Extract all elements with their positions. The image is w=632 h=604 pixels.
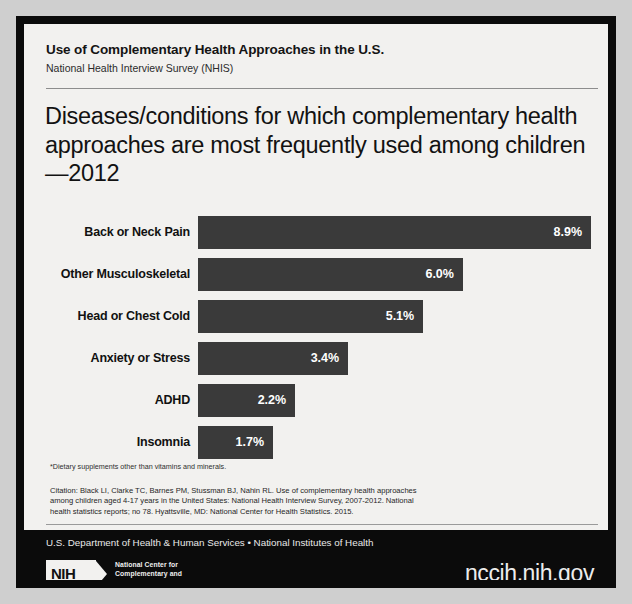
bar-chart: Back or Neck Pain8.9%Other Musculoskelet…: [24, 216, 608, 468]
header-title: Use of Complementary Health Approaches i…: [46, 42, 586, 58]
website-url[interactable]: nccih.nih.gov: [465, 558, 594, 580]
nih-badge: NIH: [46, 560, 96, 580]
bar: 1.7%: [198, 426, 273, 459]
nccih-name-line-1: National Center for: [115, 560, 182, 569]
bar: 5.1%: [198, 300, 423, 333]
bar-category-label: Back or Neck Pain: [24, 216, 190, 249]
bar-value-label: 8.9%: [554, 216, 583, 249]
chart-row: Back or Neck Pain8.9%: [24, 216, 608, 249]
chevron-right-icon: [96, 561, 107, 581]
nccih-name-line-2: Complementary and: [115, 569, 182, 578]
nih-logo: NIH National Center for Complementary an…: [46, 560, 182, 580]
bar-category-label: Other Musculoskeletal: [24, 258, 190, 291]
bar-category-label: ADHD: [24, 384, 190, 417]
bar: 2.2%: [198, 384, 295, 417]
bar: 6.0%: [198, 258, 463, 291]
nccih-name-line-3: Integrative Health: [115, 578, 182, 580]
poster-frame: Use of Complementary Health Approaches i…: [16, 16, 616, 588]
poster-page: Use of Complementary Health Approaches i…: [0, 0, 632, 604]
nih-wordmark: NIH: [51, 560, 75, 580]
bar-value-label: 1.7%: [236, 426, 265, 459]
bar-category-label: Insomnia: [24, 426, 190, 459]
chart-row: Insomnia1.7%: [24, 426, 608, 459]
chart-row: Other Musculoskeletal6.0%: [24, 258, 608, 291]
chart-row: ADHD2.2%: [24, 384, 608, 417]
bar-category-label: Head or Chest Cold: [24, 300, 190, 333]
bar-value-label: 3.4%: [311, 342, 340, 375]
page-title: Diseases/conditions for which complement…: [45, 102, 605, 188]
bar-value-label: 5.1%: [386, 300, 415, 333]
agency-bar: U.S. Department of Health & Human Servic…: [24, 530, 608, 556]
footnote: *Dietary supplements other than vitamins…: [50, 462, 226, 472]
header-subtitle: National Health Interview Survey (NHIS): [46, 61, 586, 75]
header-divider: [46, 88, 598, 89]
citation-line-3: health statistics reports; no 78. Hyatts…: [50, 507, 470, 517]
chart-row: Anxiety or Stress3.4%: [24, 342, 608, 375]
bar-category-label: Anxiety or Stress: [24, 342, 190, 375]
bar: 8.9%: [198, 216, 591, 249]
citation-line-2: among children aged 4-17 years in the Un…: [50, 496, 470, 506]
chart-row: Head or Chest Cold5.1%: [24, 300, 608, 333]
bar-value-label: 2.2%: [258, 384, 287, 417]
citation: Citation: Black LI, Clarke TC, Barnes PM…: [50, 486, 470, 517]
agency-text: U.S. Department of Health & Human Servic…: [46, 530, 373, 556]
header: Use of Complementary Health Approaches i…: [46, 42, 586, 75]
bar-value-label: 6.0%: [425, 258, 454, 291]
bar: 3.4%: [198, 342, 348, 375]
poster-card: Use of Complementary Health Approaches i…: [24, 24, 608, 580]
citation-line-1: Citation: Black LI, Clarke TC, Barnes PM…: [50, 486, 470, 496]
nccih-name: National Center for Complementary and In…: [115, 560, 182, 580]
footer-divider: [46, 524, 598, 525]
